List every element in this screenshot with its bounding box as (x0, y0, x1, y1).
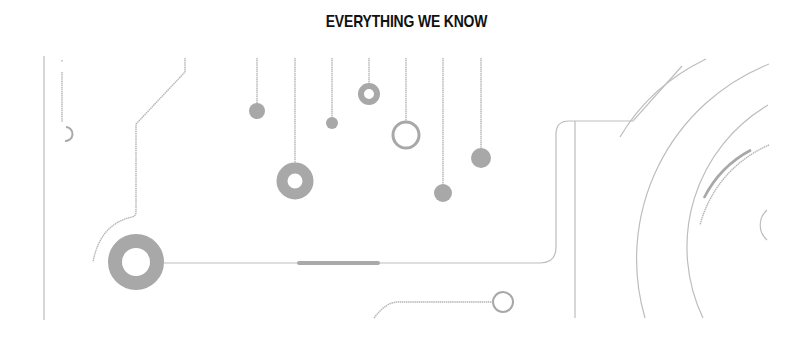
circuit-node-ring (493, 292, 513, 312)
circuit-arc (637, 64, 769, 318)
circuit-node-ring (282, 168, 308, 194)
circuit-trace (93, 58, 185, 262)
circuit-node-large-ring (115, 241, 157, 283)
circuit-node-dot (249, 103, 265, 119)
circuit-trace (164, 66, 682, 263)
circuit-illustration (0, 0, 811, 340)
circuit-node-dot (434, 184, 452, 202)
circuit-arc (760, 210, 767, 240)
circuit-node-ring (393, 122, 419, 148)
circuit-arc (620, 59, 706, 137)
circuit-node-dot (326, 117, 338, 129)
circuit-trace (374, 302, 492, 318)
circuit-arc (687, 105, 768, 318)
circuit-node-ring (361, 86, 377, 102)
circuit-node-dot (471, 148, 491, 168)
circuit-hook (65, 127, 73, 141)
